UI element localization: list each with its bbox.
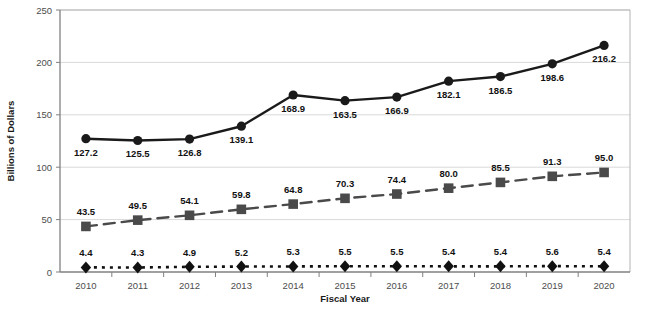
data-point-marker xyxy=(133,136,142,145)
data-point-marker xyxy=(133,215,143,225)
data-point-marker xyxy=(444,183,454,193)
data-point-marker xyxy=(392,260,402,272)
data-point-label: 126.8 xyxy=(178,147,202,158)
data-point-label: 5.5 xyxy=(338,246,352,257)
data-point-label: 49.5 xyxy=(128,200,147,211)
data-point-marker xyxy=(237,205,247,215)
data-point-label: 127.2 xyxy=(74,147,98,158)
data-point-label: 74.4 xyxy=(388,174,407,185)
data-point-label: 5.5 xyxy=(390,246,404,257)
data-point-label: 182.1 xyxy=(437,89,461,100)
data-point-marker xyxy=(547,260,557,272)
x-axis-tick-label: 2011 xyxy=(128,280,148,291)
y-axis-tick-label: 50 xyxy=(41,214,52,225)
data-point-marker xyxy=(599,41,608,50)
data-point-marker xyxy=(547,172,557,182)
data-point-marker xyxy=(495,260,505,272)
data-point-label: 70.3 xyxy=(336,178,355,189)
data-point-marker xyxy=(443,260,453,272)
data-point-label: 4.9 xyxy=(183,247,196,258)
x-axis-tick-label: 2013 xyxy=(231,280,252,291)
data-point-label: 163.5 xyxy=(333,109,357,120)
data-point-marker xyxy=(444,77,453,86)
data-point-marker xyxy=(496,72,505,81)
data-point-marker xyxy=(599,168,609,178)
y-axis-tick-label: 0 xyxy=(47,267,52,278)
data-point-label: 139.1 xyxy=(229,134,253,145)
data-point-label: 59.8 xyxy=(232,189,251,200)
x-axis-title: Fiscal Year xyxy=(320,293,370,304)
data-point-marker xyxy=(185,211,195,221)
data-point-marker xyxy=(599,260,609,272)
data-point-label: 5.3 xyxy=(287,246,300,257)
data-point-marker xyxy=(288,260,298,272)
x-axis-tick-label: 2012 xyxy=(179,280,200,291)
data-point-marker xyxy=(340,260,350,272)
data-point-label: 80.0 xyxy=(439,168,458,179)
data-point-label: 5.2 xyxy=(235,247,248,258)
data-point-marker xyxy=(548,59,557,68)
data-point-label: 5.4 xyxy=(442,246,456,257)
data-point-marker xyxy=(81,222,91,232)
x-axis-tick-label: 2017 xyxy=(438,280,459,291)
data-point-marker xyxy=(288,199,298,209)
data-point-label: 91.3 xyxy=(543,156,562,167)
data-point-label: 4.4 xyxy=(79,247,93,258)
data-point-label: 125.5 xyxy=(126,148,150,159)
x-axis-tick-label: 2010 xyxy=(75,280,96,291)
data-point-marker xyxy=(340,194,350,204)
data-point-label: 64.8 xyxy=(284,184,303,195)
data-point-label: 168.9 xyxy=(281,103,305,114)
x-axis-tick-label: 2015 xyxy=(334,280,355,291)
chart-canvas: 0501001502002502010201120122013201420152… xyxy=(0,0,646,310)
data-point-label: 54.1 xyxy=(180,195,199,206)
data-point-marker xyxy=(236,261,246,273)
data-point-label: 5.6 xyxy=(546,246,559,257)
x-axis-tick-label: 2020 xyxy=(594,280,615,291)
data-point-label: 4.3 xyxy=(131,247,144,258)
y-axis-tick-label: 100 xyxy=(36,162,52,173)
data-point-label: 5.4 xyxy=(494,246,508,257)
series-line-1 xyxy=(86,45,604,140)
data-point-label: 186.5 xyxy=(489,85,513,96)
data-point-label: 216.2 xyxy=(592,53,616,64)
data-point-label: 166.9 xyxy=(385,105,409,116)
data-point-label: 5.4 xyxy=(597,246,611,257)
data-point-label: 85.5 xyxy=(491,162,510,173)
line-chart: 0501001502002502010201120122013201420152… xyxy=(0,0,646,310)
x-axis-tick-label: 2016 xyxy=(386,280,407,291)
y-axis-title: Billions of Dollars xyxy=(5,101,16,182)
y-axis-tick-label: 250 xyxy=(36,5,52,16)
data-point-marker xyxy=(184,261,194,273)
data-point-marker xyxy=(185,135,194,144)
data-point-marker xyxy=(237,122,246,131)
data-point-marker xyxy=(496,178,506,188)
data-point-marker xyxy=(340,96,349,105)
data-point-marker xyxy=(392,92,401,101)
x-axis-tick-label: 2014 xyxy=(283,280,304,291)
data-point-label: 95.0 xyxy=(595,152,614,163)
data-point-label: 198.6 xyxy=(540,72,564,83)
y-axis-tick-label: 200 xyxy=(36,57,52,68)
y-axis-tick-label: 150 xyxy=(36,109,52,120)
x-axis-tick-label: 2018 xyxy=(490,280,511,291)
data-point-marker xyxy=(81,134,90,143)
x-axis-tick-label: 2019 xyxy=(542,280,563,291)
data-point-label: 43.5 xyxy=(77,206,96,217)
data-point-marker xyxy=(289,90,298,99)
data-point-marker xyxy=(392,189,402,199)
